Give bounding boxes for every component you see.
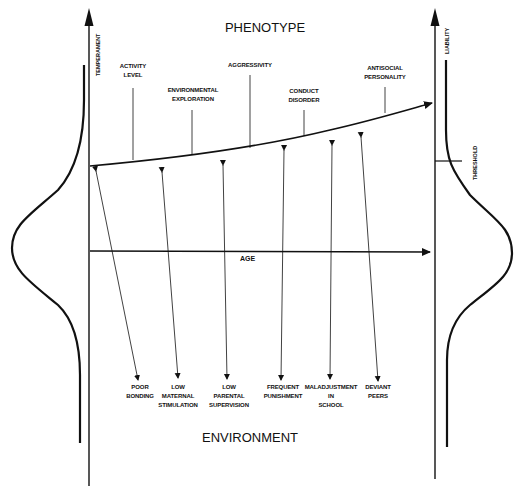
liability-axis-label: LIABILITY xyxy=(444,28,450,54)
phenotype-title: PHENOTYPE xyxy=(210,20,320,35)
liability-distribution-curve xyxy=(446,60,512,447)
label-line: MATERNAL xyxy=(155,392,201,401)
label-line: ACTIVITY xyxy=(113,62,153,71)
interaction-arrows xyxy=(96,137,378,381)
label-line: DEVIANT xyxy=(358,383,398,392)
arrow-maladjustment-in-school xyxy=(330,145,332,379)
temperament-axis-label: TEMPERAMENT xyxy=(95,34,101,76)
label-line: LEVEL xyxy=(113,71,153,80)
temperament-distribution-curve xyxy=(12,65,84,443)
phenotype-label-environmental-exploration: ENVIRONMENTAL EXPLORATION xyxy=(163,86,223,104)
label-line: SCHOOL xyxy=(303,401,359,410)
environment-label-frequent-punishment: FREQUENT PUNISHMENT xyxy=(260,383,306,401)
label-line: FREQUENT xyxy=(260,383,306,392)
arrow-low-maternal-stimulation xyxy=(162,172,178,378)
age-label: AGE xyxy=(240,255,255,262)
label-line: CONDUCT xyxy=(279,87,329,96)
label-line: STIMULATION xyxy=(155,401,201,410)
arrow-deviant-peers xyxy=(361,137,378,381)
environment-label-low-parental-supervision: LOW PARENTAL SUPERVISION xyxy=(206,383,252,410)
arrow-low-parental-supervision xyxy=(223,165,227,379)
temperament-axis xyxy=(85,8,94,486)
label-line: DISORDER xyxy=(279,96,329,105)
arrow-poor-bonding xyxy=(96,171,138,380)
environment-label-deviant-peers: DEVIANT PEERS xyxy=(358,383,398,401)
liability-axis xyxy=(431,8,440,479)
diagram-canvas xyxy=(0,0,520,494)
label-line: SUPERVISION xyxy=(206,401,252,410)
label-line: PEERS xyxy=(358,392,398,401)
label-line: ANTISOCIAL xyxy=(360,64,410,73)
label-line: AGGRESSIVITY xyxy=(225,61,275,70)
environment-label-maladjustment-in-school: MALADJUSTMENT IN SCHOOL xyxy=(303,383,359,410)
arrow-frequent-punishment xyxy=(281,150,284,380)
label-line: EXPLORATION xyxy=(163,95,223,104)
environment-label-low-maternal-stimulation: LOW MATERNAL STIMULATION xyxy=(155,383,201,410)
label-line: MALADJUSTMENT xyxy=(303,383,359,392)
label-line: IN xyxy=(303,392,359,401)
label-line: PARENTAL xyxy=(206,392,252,401)
phenotype-trajectory-arrow xyxy=(90,103,432,166)
label-line: LOW xyxy=(206,383,252,392)
label-line: LOW xyxy=(155,383,201,392)
label-line: ENVIRONMENTAL xyxy=(163,86,223,95)
phenotype-label-conduct-disorder: CONDUCT DISORDER xyxy=(279,87,329,105)
threshold-label: THRESHOLD xyxy=(472,146,478,180)
label-line: PUNISHMENT xyxy=(260,392,306,401)
phenotype-label-aggressivity: AGGRESSIVITY xyxy=(225,61,275,70)
phenotype-label-activity-level: ACTIVITY LEVEL xyxy=(113,62,153,80)
environment-title: ENVIRONMENT xyxy=(195,430,305,445)
age-axis-arrow xyxy=(90,251,430,252)
label-line: PERSONALITY xyxy=(360,73,410,82)
phenotype-label-antisocial-personality: ANTISOCIAL PERSONALITY xyxy=(360,64,410,82)
